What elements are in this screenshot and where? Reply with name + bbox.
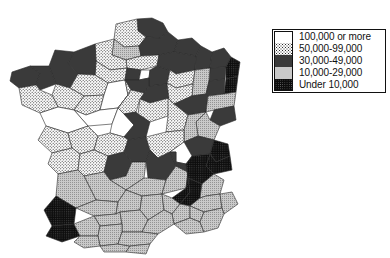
legend-swatch-100000-or-more — [274, 31, 293, 43]
legend-label: 100,000 or more — [299, 31, 371, 43]
dept-aude — [118, 232, 158, 246]
dept-vosges — [206, 79, 225, 96]
legend-swatch-30000-49000 — [274, 55, 293, 67]
legend-label: 10,000-29,000 — [299, 67, 362, 79]
france-department-map — [0, 0, 260, 258]
legend-row: 30,000-49,000 — [274, 55, 384, 67]
legend-label: 50,000-99,000 — [299, 43, 362, 55]
dept-pyrenees-atlantiques — [46, 224, 80, 242]
legend-label: Under 10,000 — [299, 79, 358, 91]
legend-row: 50,000-99,000 — [274, 43, 384, 55]
dept-yvelines — [125, 68, 141, 80]
population-legend: 100,000 or more 50,000-99,000 30,000-49,… — [272, 29, 386, 93]
legend-row: Under 10,000 — [274, 79, 384, 91]
legend-label: 30,000-49,000 — [299, 55, 362, 67]
legend-swatch-50000-99000 — [274, 43, 293, 55]
dept-hautes-pyrenees — [74, 236, 100, 248]
legend-swatch-under-10000 — [274, 79, 293, 91]
legend-row: 10,000-29,000 — [274, 67, 384, 79]
dept-haut-rhin — [224, 76, 238, 94]
choropleth-figure: 100,000 or more 50,000-99,000 30,000-49,… — [0, 0, 390, 258]
legend-swatch-10000-29000 — [274, 67, 293, 79]
legend-row: 100,000 or more — [274, 31, 384, 43]
